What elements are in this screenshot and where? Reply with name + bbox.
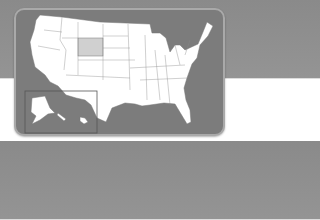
state-wyoming[interactable] [78, 38, 103, 56]
state-alaska[interactable] [31, 96, 55, 124]
state-hawaii[interactable] [57, 113, 88, 124]
us-map [0, 0, 235, 141]
